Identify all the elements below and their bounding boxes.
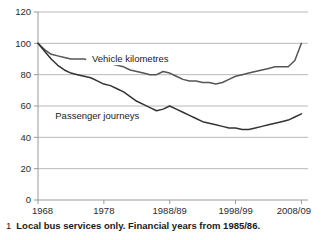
series-label: Vehicle kilometres <box>92 53 169 64</box>
x-tick-label: 1998/99 <box>218 205 252 215</box>
y-tick-label: 0 <box>26 194 31 205</box>
y-tick-label: 20 <box>20 163 31 174</box>
y-tick-label: 80 <box>20 69 31 80</box>
x-tick-label: 2008/09 <box>277 205 311 215</box>
x-axis-ticks: 196819781988/891998/992008/09 <box>32 200 311 215</box>
series-label: Passenger journeys <box>55 110 139 121</box>
footnote: 1 Local bus services only. Financial yea… <box>6 219 326 232</box>
y-tick-label: 40 <box>20 132 31 143</box>
footnote-text: Local bus services only. Financial years… <box>16 219 326 232</box>
y-axis-ticks: 020406080100120 <box>15 6 38 205</box>
footnote-marker: 1 <box>6 219 11 232</box>
x-tick-label: 1978 <box>93 205 114 215</box>
bus-index-line-chart: 020406080100120 196819781988/891998/9920… <box>0 0 330 240</box>
y-tick-label: 60 <box>20 100 31 111</box>
x-tick-label: 1968 <box>32 205 53 215</box>
gridlines-group <box>38 12 308 169</box>
chart-plot-area: 020406080100120 196819781988/891998/9920… <box>0 0 330 215</box>
x-tick-label: 1988/89 <box>153 205 187 215</box>
y-tick-label: 100 <box>15 38 31 49</box>
y-tick-label: 120 <box>15 6 31 17</box>
